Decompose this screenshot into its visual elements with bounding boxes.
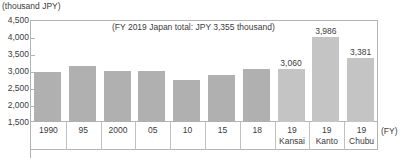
x-axis-unit-label: (FY) <box>381 126 398 137</box>
x-tick-label: 19Kanto <box>309 125 344 147</box>
bar <box>69 66 96 122</box>
x-axis-separator <box>170 122 171 150</box>
bar <box>34 72 61 122</box>
bar-value-label: 3,060 <box>272 58 311 68</box>
bar-value-label: 3,986 <box>306 26 345 36</box>
bars-layer: 3,0603,9863,381 <box>30 20 378 122</box>
bar <box>208 75 235 122</box>
bar <box>312 37 339 122</box>
x-tick-label: 95 <box>66 125 101 136</box>
y-tick-label: 4,000 <box>8 33 29 42</box>
bar-chart: (thousand JPY) 1,5002,0002,5003,0003,500… <box>0 0 409 161</box>
x-axis-separator <box>344 122 345 150</box>
x-tick-label: 2000 <box>101 125 136 136</box>
y-tick-label: 2,500 <box>8 84 29 93</box>
x-tick-label: 15 <box>205 125 240 136</box>
x-axis-separator <box>240 122 241 150</box>
bar <box>278 69 305 122</box>
x-tick-label: 10 <box>170 125 205 136</box>
y-axis: 1,5002,0002,5003,0003,5004,0004,500 <box>0 14 30 126</box>
x-tick-label: 19Kansai <box>275 125 310 147</box>
y-tick-label: 2,000 <box>8 101 29 110</box>
bar <box>138 71 165 122</box>
x-tick-label: 19Chubu <box>344 125 379 147</box>
x-axis-separator <box>205 122 206 150</box>
x-axis: 19909520000510151819Kansai19Kanto19Chubu <box>30 122 378 150</box>
x-axis-separator <box>309 122 310 150</box>
y-tick-label: 1,500 <box>8 118 29 127</box>
y-tick-label: 3,000 <box>8 67 29 76</box>
x-axis-separator <box>275 122 276 150</box>
bar <box>173 80 200 122</box>
bar-value-label: 3,381 <box>341 47 380 57</box>
x-axis-separator <box>101 122 102 150</box>
bar <box>104 71 131 122</box>
bar <box>347 58 374 122</box>
axis-tail <box>30 150 31 158</box>
x-axis-separator <box>135 122 136 150</box>
y-tick-label: 4,500 <box>8 16 29 25</box>
y-tick-label: 3,500 <box>8 50 29 59</box>
x-tick-label: 05 <box>135 125 170 136</box>
x-tick-label: 1990 <box>31 125 66 136</box>
x-tick-label: 18 <box>240 125 275 136</box>
bar <box>243 69 270 122</box>
y-axis-unit-label: (thousand JPY) <box>2 1 61 11</box>
x-axis-separator <box>66 122 67 150</box>
